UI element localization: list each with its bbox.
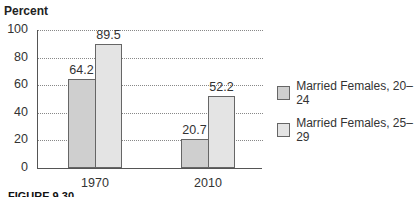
y-axis-label: Percent — [4, 4, 48, 18]
y-axis — [37, 30, 38, 169]
legend-item: Married Females, 20–24 — [277, 79, 417, 107]
legend-label: Married Females, 25–29 — [296, 116, 417, 144]
figure-caption: FIGURE 9.30 — [8, 190, 74, 197]
y-tick-label: 0 — [0, 160, 28, 174]
legend-label: Married Females, 20–24 — [296, 79, 417, 107]
x-axis — [37, 168, 262, 169]
legend-item: Married Females, 25–29 — [277, 116, 417, 144]
y-tick-label: 60 — [0, 77, 28, 91]
value-label: 52.2 — [202, 80, 241, 94]
legend: Married Females, 20–24Married Females, 2… — [277, 79, 417, 153]
y-tick-label: 40 — [0, 105, 28, 119]
gridline — [38, 30, 263, 31]
bar-2010-series-2 — [208, 96, 235, 168]
bar-2010-series-1 — [181, 139, 209, 168]
gridline — [38, 58, 263, 59]
x-tick-label: 2010 — [171, 176, 245, 190]
y-tick-label: 20 — [0, 132, 28, 146]
x-tick-label: 1970 — [58, 176, 132, 190]
y-tick-label: 100 — [0, 22, 28, 36]
bar-1970-series-1 — [68, 79, 96, 168]
legend-swatch — [277, 123, 290, 137]
value-label: 89.5 — [89, 28, 128, 42]
legend-swatch — [277, 86, 290, 100]
y-tick-label: 80 — [0, 50, 28, 64]
bar-1970-series-2 — [95, 44, 122, 168]
